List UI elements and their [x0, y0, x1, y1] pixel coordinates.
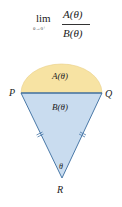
label-point-p: P	[8, 87, 15, 98]
label-theta: θ	[59, 162, 63, 171]
geometry-diagram: A(θ) B(θ) θ P Q R	[0, 0, 122, 207]
label-point-q: Q	[105, 88, 113, 99]
label-point-r: R	[56, 184, 63, 195]
label-a-theta: A(θ)	[51, 71, 68, 81]
label-b-theta: B(θ)	[52, 102, 68, 112]
